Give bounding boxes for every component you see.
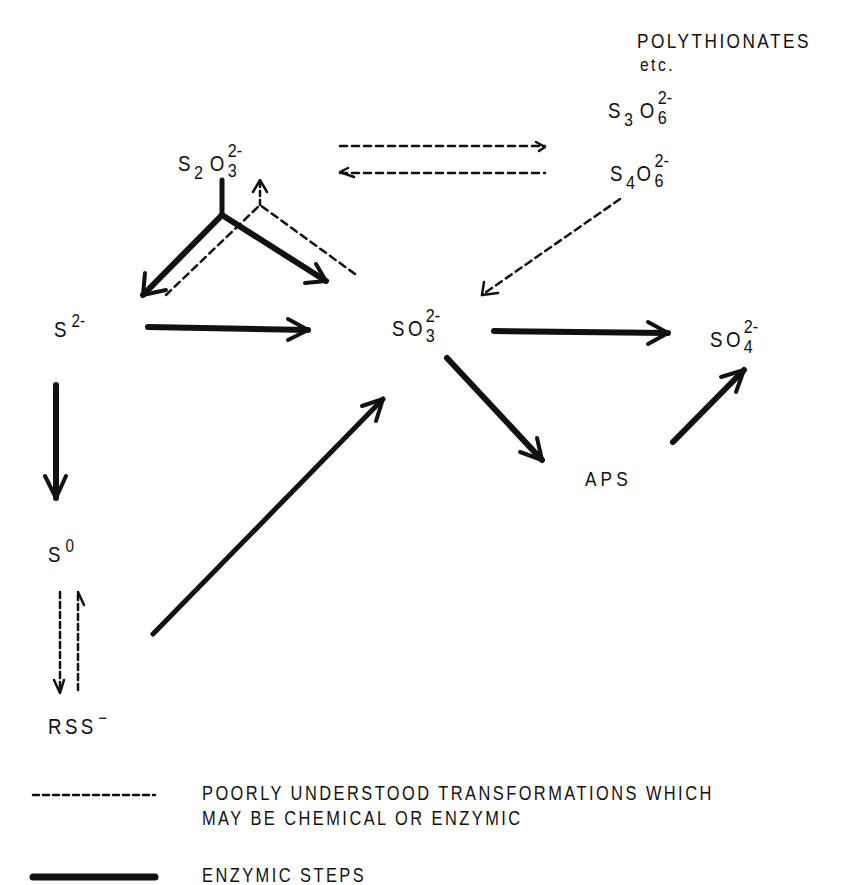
elemental-sulfur-el1: S — [48, 542, 64, 567]
legend-dashed-label-line1: POORLY UNDERSTOOD TRANSFORMATIONS WHICH — [202, 783, 714, 803]
trithionate-charge: 2- — [658, 88, 672, 107]
legend-solid-label: ENZYMIC STEPS — [202, 865, 366, 885]
trithionate-el1: S — [608, 98, 624, 123]
polythionates-title: POLYTHIONATES — [637, 30, 811, 51]
sulfate-sub2: 4 — [744, 337, 753, 356]
arrow-thiosulfate-to-sulfide — [143, 215, 222, 295]
node-sulfide: S2- — [54, 319, 85, 341]
elemental-sulfur-charge: 0 — [66, 536, 75, 556]
tetrathionate-sub2: 6 — [655, 171, 664, 190]
thiosulfate-el1: S — [178, 151, 194, 176]
sulfate-el2: O — [726, 327, 744, 352]
node-sulfate: SO2-4 — [710, 329, 769, 351]
thiosulfate-charge: 2- — [228, 141, 242, 160]
sulfate-el1: S — [710, 327, 726, 352]
thiosulfate-el2: O — [210, 151, 228, 176]
sulfide-charge: 2- — [72, 311, 86, 331]
arrow-polythionates-to-thiosulfate — [340, 168, 545, 177]
arrow-sulfide-to-elemental-sulfur — [45, 385, 66, 498]
sulfite-el2: O — [408, 316, 426, 341]
tetrathionate-el1: S — [610, 161, 626, 186]
arrow-persulfide-to-elemental-sulfur — [78, 592, 84, 690]
arrow-sulfite-to-aps — [447, 358, 542, 460]
trithionate-el2: O — [640, 98, 658, 123]
persulfide-charge: − — [98, 708, 110, 728]
arrow-aps-to-sulfate — [673, 370, 744, 442]
trithionate-sub2: 6 — [658, 108, 667, 127]
arrow-persulfide-to-sulfite — [153, 399, 383, 634]
node-elemental-sulfur: S0 — [48, 544, 74, 566]
arrow-thiosulfate-to-polythionates — [340, 142, 545, 151]
polythionates-etc: etc. — [640, 55, 675, 74]
pathway-diagram — [0, 0, 852, 885]
node-tetrathionate: S4O2-6 — [610, 163, 680, 185]
arrow-sulfide-to-sulfite — [148, 319, 308, 340]
arrow-elemental-sulfur-to-persulfide — [54, 592, 64, 693]
sulfite-el1: S — [392, 316, 408, 341]
node-persulfide: RSS− — [48, 716, 111, 738]
arrow-sulfite-to-thiosulfate-dashed — [260, 205, 355, 274]
arrow-sulfite-to-sulfate — [494, 322, 668, 344]
persulfide-el1: RSS — [48, 714, 97, 739]
sulfate-charge: 2- — [744, 317, 758, 336]
trithionate-sub1: 3 — [624, 109, 633, 130]
thiosulfate-sub1: 2 — [194, 162, 203, 183]
node-trithionate: S3 O2-6 — [608, 100, 683, 122]
node-thiosulfate: S2 O2-3 — [178, 153, 253, 175]
arrow-polythionates-to-sulfite — [482, 199, 620, 295]
sulfide-el1: S — [54, 317, 70, 342]
tetrathionate-sub1: 4 — [626, 172, 635, 193]
sulfite-sub2: 3 — [426, 326, 435, 345]
tetrathionate-charge: 2- — [655, 151, 669, 170]
thiosulfate-sub2: 3 — [228, 161, 237, 180]
sulfite-charge: 2- — [426, 306, 440, 325]
tetrathionate-el2: O — [637, 161, 655, 186]
arrow-sulfide-to-thiosulfate-dashed — [166, 180, 267, 295]
node-sulfite: SO2-3 — [392, 318, 451, 340]
node-aps: APS — [585, 468, 632, 489]
legend-dashed-label-line2: MAY BE CHEMICAL OR ENZYMIC — [202, 808, 523, 828]
